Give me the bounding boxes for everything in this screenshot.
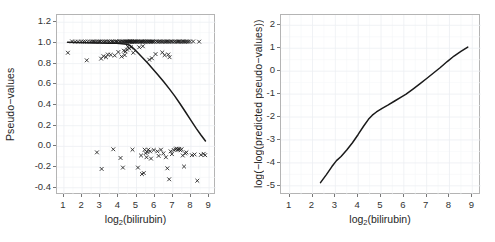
right-x-axis-title-rest: (bilirubin)	[368, 213, 411, 225]
left-x-tick-label: 5	[126, 199, 146, 210]
panel-left-pseudo-values: Pseudo−values log2(bilirubin) 1.21.00.80…	[0, 0, 248, 242]
scatter-marker	[85, 58, 89, 62]
scatter-marker	[121, 166, 125, 170]
left-x-axis-title-rest: (bilirubin)	[123, 213, 166, 225]
left-y-tickmark	[53, 145, 56, 146]
right-y-tickmark	[277, 93, 280, 94]
left-x-tick-label: 7	[162, 199, 182, 210]
right-x-tick-label: 9	[461, 199, 481, 210]
panel-right-predicted: log(−log(predicted pseudo−values)) log2(…	[240, 0, 495, 242]
left-x-tick-label: 4	[107, 199, 127, 210]
left-y-tick-label: 0.0	[24, 139, 51, 150]
left-x-tickmark	[136, 194, 137, 197]
right-x-tickmark	[426, 194, 427, 197]
scatter-marker	[113, 54, 117, 58]
right-y-tickmark	[277, 139, 280, 140]
right-y-tick-label: -1	[248, 87, 275, 98]
left-x-tickmark	[99, 194, 100, 197]
right-x-axis-title-base: log	[349, 213, 363, 225]
left-x-tick-label: 3	[89, 199, 109, 210]
left-x-tickmark	[81, 194, 82, 197]
left-x-tick-label: 2	[71, 199, 91, 210]
scatter-marker	[182, 165, 186, 169]
right-y-tickmark	[277, 70, 280, 71]
scatter-marker	[185, 150, 189, 154]
scatter-marker	[161, 152, 165, 156]
left-x-axis-title: log2(bilirubin)	[56, 213, 215, 225]
left-x-tick-label: 1	[53, 199, 73, 210]
left-y-tick-label: 0.4	[24, 98, 51, 109]
scatter-marker	[131, 148, 135, 152]
scatter-marker	[148, 149, 152, 153]
right-x-tickmark	[357, 194, 358, 197]
scatter-marker	[141, 44, 145, 48]
left-x-tick-label: 9	[198, 199, 218, 210]
right-x-tick-label: 7	[416, 199, 436, 210]
scatter-marker	[180, 147, 184, 151]
right-y-tick-label: 2	[248, 18, 275, 29]
left-x-tickmark	[154, 194, 155, 197]
left-x-tickmark	[172, 194, 173, 197]
right-x-axis-title-sub: 2	[363, 218, 367, 227]
right-y-tickmark	[277, 162, 280, 163]
right-x-tickmark	[334, 194, 335, 197]
left-y-tick-label: 0.6	[24, 77, 51, 88]
left-x-tickmark	[190, 194, 191, 197]
left-y-tick-label: -0.4	[24, 181, 51, 192]
scatter-marker	[157, 154, 161, 158]
left-y-tickmark	[53, 104, 56, 105]
left-x-tick-label: 6	[144, 199, 164, 210]
right-plot-svg	[281, 15, 481, 195]
left-plot-area	[56, 14, 215, 194]
right-plot-area	[280, 14, 480, 194]
left-y-tickmark	[53, 83, 56, 84]
right-y-tick-label: -4	[248, 156, 275, 167]
right-x-tickmark	[312, 194, 313, 197]
right-y-tick-label: -2	[248, 110, 275, 121]
scatter-marker	[131, 51, 135, 55]
left-plot-svg	[57, 15, 216, 195]
scatter-marker	[137, 45, 141, 49]
right-y-tickmark	[277, 24, 280, 25]
right-x-axis-title: log2(bilirubin)	[280, 213, 480, 225]
left-x-tickmark	[117, 194, 118, 197]
left-y-tickmark	[53, 187, 56, 188]
right-x-tickmark	[471, 194, 472, 197]
scatter-marker	[159, 148, 163, 152]
left-y-tick-label: 0.8	[24, 57, 51, 68]
right-x-tickmark	[289, 194, 290, 197]
left-y-tickmark	[53, 21, 56, 22]
scatter-marker	[155, 149, 159, 153]
scatter-marker	[145, 155, 149, 159]
right-x-tick-label: 4	[347, 199, 367, 210]
left-y-axis-title: Pseudo−values	[4, 14, 16, 194]
left-y-tickmark	[53, 166, 56, 167]
right-x-tick-label: 1	[279, 199, 299, 210]
right-x-tick-label: 8	[438, 199, 458, 210]
left-x-tickmark	[63, 194, 64, 197]
right-x-tick-label: 2	[302, 199, 322, 210]
left-x-axis-title-sub: 2	[119, 218, 123, 227]
left-y-tick-label: 1.0	[24, 36, 51, 47]
right-y-tickmark	[277, 116, 280, 117]
figure-two-panel-diagnostic-plot: Pseudo−values log2(bilirubin) 1.21.00.80…	[0, 0, 495, 242]
left-y-tickmark	[53, 125, 56, 126]
right-y-tickmark	[277, 47, 280, 48]
right-fitted-curve	[321, 47, 468, 183]
scatter-marker	[149, 157, 153, 161]
right-x-tick-label: 3	[324, 199, 344, 210]
right-x-tickmark	[380, 194, 381, 197]
scatter-marker	[167, 177, 171, 181]
right-y-tick-label: -5	[248, 179, 275, 190]
right-y-tickmark	[277, 185, 280, 186]
scatter-marker	[111, 147, 115, 151]
left-y-tick-label: 0.2	[24, 119, 51, 130]
right-x-tickmark	[448, 194, 449, 197]
right-y-tick-label: 1	[248, 41, 275, 52]
left-y-tick-label: -0.2	[24, 160, 51, 171]
scatter-marker	[154, 52, 158, 56]
scatter-marker	[195, 179, 199, 183]
scatter-marker	[163, 53, 167, 57]
right-y-tick-label: -3	[248, 133, 275, 144]
right-y-tick-label: 0	[248, 64, 275, 75]
